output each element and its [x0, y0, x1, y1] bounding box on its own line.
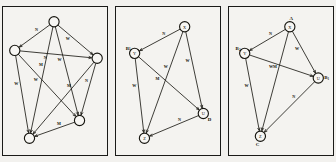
graph-edge: W [58, 25, 93, 55]
node-external-label: B2 [236, 46, 241, 52]
graph-edge: N [81, 63, 96, 115]
graph-node [74, 115, 84, 125]
edge-label: M [67, 83, 71, 88]
graph-panel-3: NWMWWNXAYB2UB1ZC [228, 6, 334, 156]
graph-node: XA [285, 16, 295, 32]
graph-node [49, 17, 59, 27]
graph-edge: N [19, 25, 50, 47]
graph-edge: N [264, 82, 314, 133]
edge-label: W [244, 83, 249, 88]
edge-label: N [44, 55, 47, 60]
edge-label: W [132, 83, 137, 88]
graph-edge: N [20, 51, 92, 60]
graph-edge: M [138, 57, 199, 110]
graph-node: UD [198, 108, 211, 121]
graph-edge: W [244, 58, 260, 130]
edge-label: W [66, 36, 71, 41]
node-letter: Z [143, 136, 146, 141]
graph-node: ZC [255, 131, 265, 146]
graph-edge: W [186, 32, 203, 108]
node-letter: Y [133, 51, 136, 56]
edge-label: M [156, 76, 160, 81]
graph-edge: M [33, 62, 94, 134]
graph-node: X [180, 22, 190, 32]
graph-edge: N [140, 29, 180, 51]
edge-label: M [273, 64, 277, 69]
edge-label: W [186, 58, 191, 63]
graph-node: YB1 [126, 46, 140, 59]
edge-label: N [85, 78, 88, 83]
graph-node [24, 133, 34, 143]
node-external-label: C [256, 142, 260, 147]
edge-label: W [57, 57, 62, 62]
graph-edge: M [35, 121, 75, 137]
edge-label: W [164, 64, 169, 69]
graph-edge: N [250, 29, 286, 50]
node-external-label: A [289, 16, 293, 21]
graph-edge: W [14, 55, 29, 132]
node-letter: Y [243, 51, 246, 56]
edge-label: N [162, 31, 165, 36]
graph-node: Z [139, 133, 149, 143]
edge-label: W [14, 81, 19, 86]
edge-label: W [295, 46, 300, 51]
node-letter: Z [259, 134, 262, 139]
graph-node: UB1 [313, 73, 329, 83]
node-external-label: B1 [324, 75, 329, 81]
graph-panel-1: NWMWNWWMNM [2, 6, 108, 156]
graph-edge: W [132, 58, 145, 132]
node-external-label: B1 [126, 46, 131, 52]
graph-node: YB2 [236, 46, 250, 59]
graph-edge: N [150, 116, 199, 137]
graph-canvas-3: NWMWWNXAYB2UB1ZC [229, 7, 333, 155]
edge-label: N [292, 94, 295, 99]
graph-edge: W [292, 31, 315, 73]
graph-edge: M [261, 32, 288, 131]
graph-canvas-1: NWMWNWWMNM [3, 7, 107, 155]
graph-node [10, 45, 20, 55]
graph-node [92, 53, 102, 63]
edge-label: N [269, 31, 272, 36]
graph-canvas-2: NWWMWNXYB1UDZ [116, 7, 220, 155]
edge-label: M [57, 121, 61, 126]
edge-label: M [39, 62, 43, 67]
figure-triptych: NWMWNWWMNM NWWMWNXYB1UDZ NWMWWNXAYB2UB1Z… [0, 0, 336, 162]
node-external-label: D [208, 117, 212, 122]
edge-label: N [178, 117, 181, 122]
edge-label: N [35, 27, 38, 32]
graph-panel-2: NWWMWNXYB1UDZ [115, 6, 221, 156]
edge-label: W [34, 77, 39, 82]
